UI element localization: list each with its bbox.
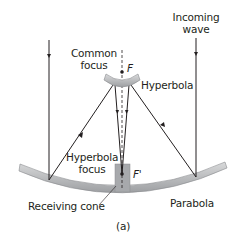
label-hyperbola-focus: Hyperbola focus (66, 151, 118, 175)
label-common-line1: Common (68, 47, 120, 59)
label-common-focus: Common focus (68, 47, 120, 71)
label-hf-line2: focus (66, 163, 118, 175)
label-incoming-line1: Incoming (166, 11, 226, 23)
label-focus-f-prime: F' (133, 168, 142, 180)
label-panel: (a) (116, 220, 130, 232)
secondary-ray-right (122, 85, 129, 174)
arrow-icon (194, 52, 198, 56)
label-receiving-cone: Receiving cone (28, 200, 105, 212)
label-hf-line1: Hyperbola (66, 151, 118, 163)
focus-point-f-prime (120, 172, 124, 176)
label-incoming-wave: Incoming wave (166, 11, 226, 35)
label-incoming-line2: wave (166, 23, 226, 35)
arrow-icon (47, 54, 51, 58)
label-common-line2: focus (68, 59, 120, 71)
reflected-ray-right (131, 85, 196, 177)
arrow-icon (116, 110, 120, 114)
label-focus-f: F (127, 62, 133, 74)
label-hyperbola: Hyperbola (141, 79, 193, 91)
label-parabola: Parabola (170, 197, 214, 209)
arrow-icon (125, 110, 129, 114)
focus-point-f (120, 70, 124, 74)
